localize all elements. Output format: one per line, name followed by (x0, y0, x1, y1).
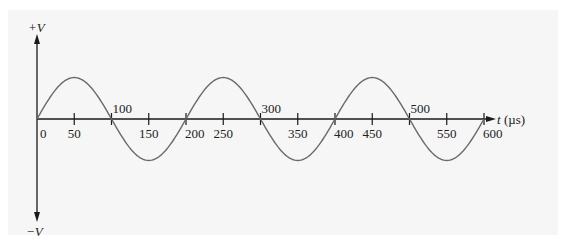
x-tick-label: 550 (437, 126, 457, 141)
x-tick-label: 600 (483, 126, 503, 141)
x-tick-label: 50 (68, 126, 81, 141)
y-axis-up-arrow-icon (34, 34, 40, 44)
x-tick-label: 350 (288, 126, 308, 141)
y-axis-top-label: +V (28, 20, 47, 35)
x-axis-arrow-icon (486, 116, 496, 122)
x-tick-label: 150 (139, 126, 159, 141)
chart-figure: 050100150200250300350400450500550600 +V … (0, 0, 564, 245)
x-tick-label: 0 (40, 126, 47, 141)
x-ticks: 050100150200250300350400450500550600 (40, 101, 503, 141)
x-tick-label: 100 (113, 101, 133, 116)
y-axis-down-arrow-icon (34, 212, 40, 222)
x-tick-label: 300 (262, 101, 282, 116)
x-axis-label: t (µs) (497, 112, 525, 127)
x-tick-label: 250 (214, 126, 234, 141)
x-tick-label: 400 (334, 126, 354, 141)
x-tick-label: 500 (411, 101, 431, 116)
x-tick-label: 450 (363, 126, 383, 141)
x-tick-label: 200 (185, 126, 205, 141)
y-axis-bottom-label: −V (26, 224, 45, 239)
sine-wave-chart: 050100150200250300350400450500550600 +V … (0, 0, 564, 245)
